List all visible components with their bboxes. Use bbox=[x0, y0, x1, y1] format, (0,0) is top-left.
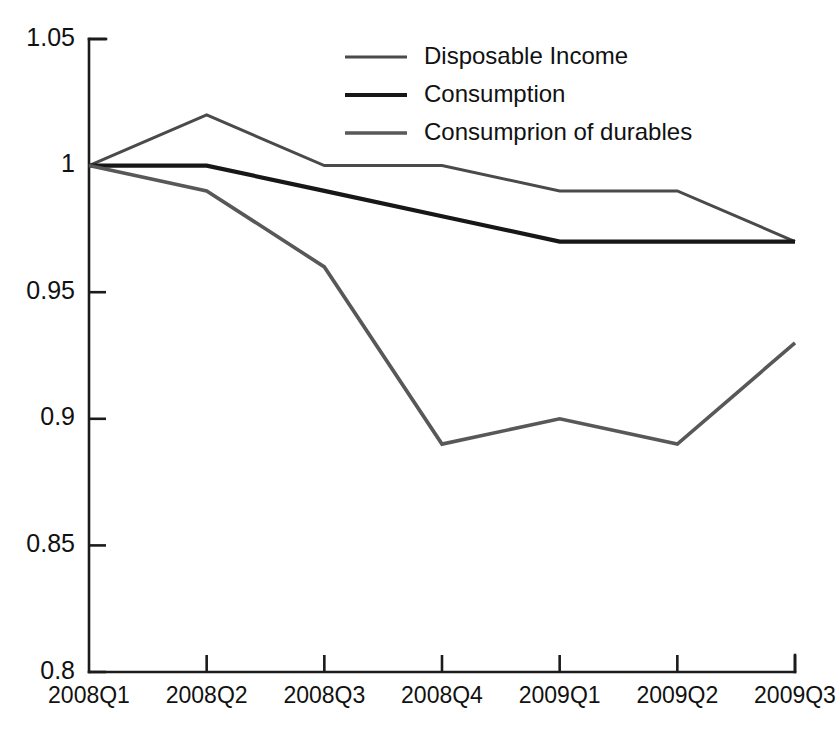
x-tick-group: 2008Q12008Q22008Q32008Q42009Q12009Q22009… bbox=[48, 655, 836, 708]
chart-legend: Disposable IncomeConsumptionConsumprion … bbox=[345, 42, 692, 145]
y-tick-label: 1 bbox=[61, 149, 75, 177]
x-tick-label: 2008Q1 bbox=[48, 682, 130, 708]
line-chart: 0.80.850.90.9511.05 2008Q12008Q22008Q320… bbox=[0, 0, 840, 735]
y-tick-label: 0.9 bbox=[40, 402, 75, 430]
series-line-3 bbox=[89, 166, 795, 445]
x-tick-label: 2009Q3 bbox=[754, 682, 836, 708]
legend-label-2: Consumption bbox=[424, 80, 565, 107]
y-tick-label: 0.85 bbox=[26, 529, 75, 557]
series-line-2 bbox=[89, 166, 795, 242]
x-tick-label: 2008Q2 bbox=[166, 682, 248, 708]
x-tick-label: 2009Q1 bbox=[519, 682, 601, 708]
series-group bbox=[89, 115, 795, 444]
x-tick-label: 2008Q4 bbox=[401, 682, 483, 708]
chart-container: 0.80.850.90.9511.05 2008Q12008Q22008Q320… bbox=[0, 0, 840, 735]
x-tick-label: 2008Q3 bbox=[283, 682, 365, 708]
y-tick-group: 0.80.850.90.9511.05 bbox=[26, 23, 106, 684]
y-tick-label: 1.05 bbox=[26, 23, 75, 51]
y-tick-label: 0.8 bbox=[40, 656, 75, 684]
x-tick-label: 2009Q2 bbox=[636, 682, 718, 708]
legend-label-1: Disposable Income bbox=[424, 42, 628, 69]
y-tick-label: 0.95 bbox=[26, 276, 75, 304]
legend-label-3: Consumprion of durables bbox=[424, 118, 692, 145]
